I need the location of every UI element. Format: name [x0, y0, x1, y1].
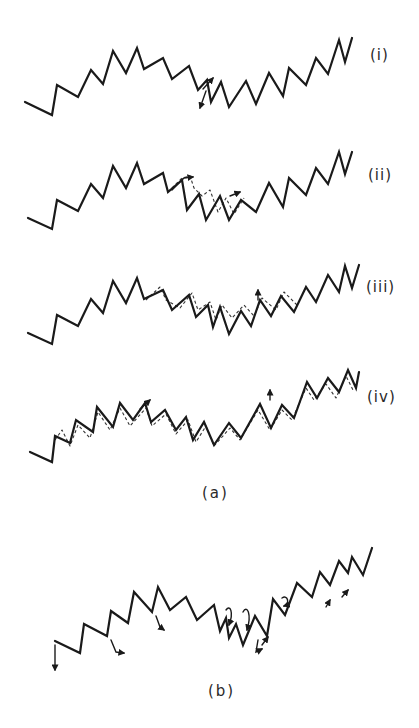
- motion-arrow-icon: [200, 91, 206, 108]
- zigzag-chain-diagram: (i) (ii) (iii) (iv) (a) (b): [0, 0, 419, 728]
- label-ii: (ii): [368, 166, 392, 184]
- chain-iii: [28, 265, 359, 344]
- motion-arrow-icon: [282, 597, 288, 606]
- motion-arrow-icon: [256, 640, 262, 652]
- row-i: (i): [25, 38, 389, 115]
- arrows-b: [55, 590, 348, 670]
- caption-b: (b): [208, 682, 235, 700]
- label-iii: (iii): [366, 278, 395, 296]
- part-a: (i) (ii) (iii) (iv) (a): [25, 38, 396, 502]
- row-iv: (iv): [30, 370, 396, 462]
- chain-iv: [30, 370, 359, 462]
- part-b: (b): [55, 548, 372, 700]
- caption-a: (a): [202, 484, 229, 502]
- motion-arrow-icon: [326, 600, 330, 607]
- motion-arrow-icon: [230, 192, 240, 196]
- row-iii: (iii): [28, 265, 395, 344]
- motion-arrow-icon: [156, 616, 164, 630]
- chain-i: [25, 38, 352, 115]
- motion-arrow-icon: [243, 609, 249, 630]
- motion-arrow-icon: [111, 640, 124, 653]
- chain-b: [55, 548, 372, 653]
- label-i: (i): [370, 46, 389, 64]
- motion-arrow-icon: [262, 637, 268, 645]
- label-iv: (iv): [367, 388, 396, 406]
- row-ii: (ii): [28, 152, 392, 229]
- motion-arrow-icon: [342, 590, 348, 597]
- arrows-iv: [140, 390, 270, 409]
- chain-ii: [28, 152, 352, 229]
